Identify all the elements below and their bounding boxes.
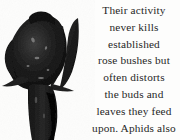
caption-line: rose bushes but [88, 52, 180, 69]
caption-line: excrete honeydew, [88, 136, 180, 140]
caption-line: Their activity [88, 2, 180, 19]
caption-text-block: Their activity never kills established r… [88, 2, 180, 140]
caption-line: upon. Aphids also [88, 120, 180, 137]
page-root: Their activity never kills established r… [0, 0, 180, 140]
caption-line: established [88, 36, 180, 53]
print-grain-overlay [0, 0, 95, 140]
caption-line: often distorts [88, 69, 180, 86]
caption-line: the buds and [88, 86, 180, 103]
rose-bud-photo [0, 0, 95, 140]
caption-line: leaves they feed [88, 103, 180, 120]
caption-line: never kills [88, 19, 180, 36]
rose-bud-illustration [0, 0, 95, 140]
